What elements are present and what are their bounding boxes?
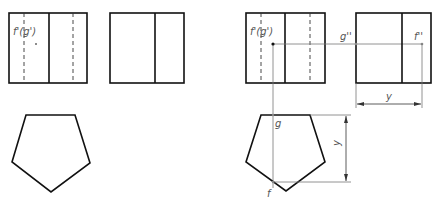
- top-point-g: [272, 114, 274, 116]
- left-side-view: [110, 13, 184, 83]
- projection-drawing: f'(g') f'(g') g'' f'': [0, 0, 438, 212]
- dim-label-h: y: [385, 91, 393, 102]
- front-point-fg: [271, 42, 274, 45]
- left-side-outline: [110, 13, 184, 83]
- arrow-left-icon: [357, 102, 364, 106]
- right-front-label: f'(g'): [250, 26, 273, 37]
- left-top-view: [12, 115, 90, 192]
- side-point-g: [355, 43, 358, 46]
- side-label-f: f'': [414, 31, 423, 42]
- left-front-label: f'(g'): [13, 26, 36, 37]
- arrow-right-icon: [414, 102, 421, 106]
- horizontal-dimension: y: [356, 44, 422, 108]
- right-side-view: g'' f'': [340, 13, 431, 83]
- top-label-g: g: [275, 118, 281, 129]
- right-figure: f'(g') g'' f'' y g f: [246, 13, 431, 199]
- left-pentagon: [12, 115, 90, 192]
- right-front-view: f'(g'): [246, 13, 325, 83]
- right-top-view: g f: [246, 114, 325, 199]
- left-front-outline: [9, 13, 87, 83]
- top-label-f: f: [267, 188, 272, 199]
- arrow-up-icon: [344, 116, 348, 123]
- right-pentagon: [246, 115, 325, 191]
- left-figure: f'(g'): [9, 13, 184, 192]
- dim-label-v: y: [331, 139, 342, 147]
- side-label-g: g'': [340, 31, 352, 42]
- left-front-point: [35, 43, 37, 45]
- arrow-down-icon: [344, 174, 348, 181]
- right-side-outline: [356, 13, 431, 83]
- left-front-view: f'(g'): [9, 13, 87, 83]
